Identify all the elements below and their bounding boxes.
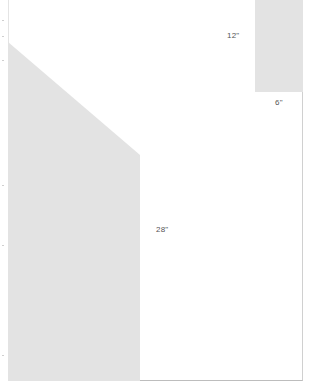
dimension-label-6in: 6"	[275, 98, 283, 107]
dimension-label-28in: 28"	[156, 225, 168, 234]
small-rectangle-shape	[255, 0, 303, 92]
dimension-label-12in: 12"	[227, 31, 239, 40]
main-panel-shape	[8, 42, 140, 381]
shapes-canvas	[0, 0, 309, 390]
